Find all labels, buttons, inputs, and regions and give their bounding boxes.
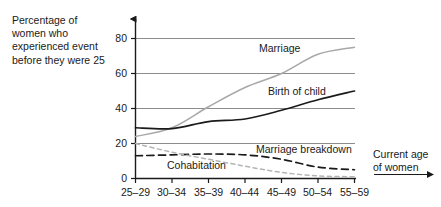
series-label-marriage: Marriage bbox=[259, 42, 300, 54]
ytick-label-20: 20 bbox=[108, 137, 127, 149]
ytick-label-60: 60 bbox=[108, 67, 127, 79]
ytick-label-40: 40 bbox=[108, 102, 127, 114]
ytick-label-80: 80 bbox=[108, 32, 127, 44]
data-series-layer bbox=[136, 47, 355, 177]
x-axis-caption: Current age of women bbox=[373, 148, 441, 174]
series-label-birth-of-child: Birth of child bbox=[268, 85, 326, 97]
series-label-marriage-breakdown: Marriage breakdown bbox=[256, 143, 352, 155]
ytick-label-0: 0 bbox=[108, 172, 127, 184]
series-label-cohabitation: Cohabitation bbox=[167, 159, 226, 171]
xtick-label-55-59: 55–59 bbox=[332, 186, 377, 198]
chart-figure: Percentage of women who experienced even… bbox=[0, 0, 441, 207]
